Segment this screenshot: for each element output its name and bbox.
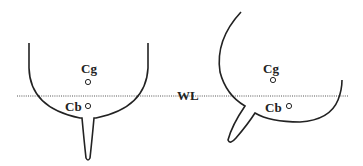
- waterline-label: WL: [177, 89, 199, 102]
- heeled-cb-marker: [286, 103, 291, 108]
- diagram-canvas: [0, 0, 363, 166]
- upright-cb-marker: [85, 103, 90, 108]
- heeled-cb-label: Cb: [265, 101, 282, 114]
- stability-diagram: Cg Cb WL Cg Cb: [0, 0, 363, 166]
- upright-cg-marker: [85, 79, 90, 84]
- upright-cg-label: Cg: [81, 62, 97, 75]
- upright-cb-label: Cb: [65, 100, 82, 113]
- heeled-cg-marker: [270, 77, 275, 82]
- heeled-hull-outline: [219, 12, 342, 142]
- heeled-cg-label: Cg: [263, 62, 279, 75]
